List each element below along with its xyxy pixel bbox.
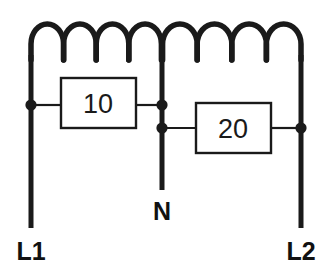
circuit-diagram: 10 20 L1 N L2 xyxy=(0,0,330,275)
inductor-coil-winding xyxy=(31,24,301,60)
coil-arch-8 xyxy=(266,24,301,60)
terminal-label-l1: L1 xyxy=(16,237,45,265)
resistor-20-label: 20 xyxy=(218,114,248,144)
coil-arch-6 xyxy=(197,24,232,60)
junction-node-left xyxy=(25,99,36,110)
coil-arch-2 xyxy=(64,24,97,60)
resistor-10-label: 10 xyxy=(83,89,113,119)
terminal-label-n: N xyxy=(153,197,171,225)
coil-arch-7 xyxy=(232,24,267,60)
terminal-label-l2: L2 xyxy=(286,237,315,265)
resistor-box-10: 10 xyxy=(61,78,136,128)
junction-node-center-lower xyxy=(156,122,167,133)
coil-arch-5 xyxy=(163,24,198,60)
coil-arch-3 xyxy=(96,24,129,60)
resistor-box-20: 20 xyxy=(196,103,271,153)
junction-node-right xyxy=(295,122,306,133)
coil-arch-4 xyxy=(129,24,162,60)
coil-arch-1 xyxy=(31,24,64,60)
junction-node-center-upper xyxy=(156,99,167,110)
circuit-schematic-canvas: 10 20 L1 N L2 xyxy=(0,0,330,275)
